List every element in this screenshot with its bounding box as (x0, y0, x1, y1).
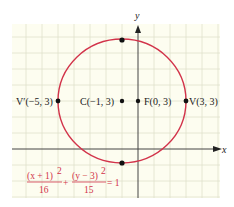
point-center (120, 99, 124, 103)
label-vprime: V′(−5, 3) (16, 96, 53, 108)
point-vprime (56, 99, 61, 104)
eq-exponent-2: 2 (101, 166, 106, 176)
eq-rhs: = 1 (107, 178, 120, 188)
x-axis-label: x (221, 144, 227, 155)
ellipse-diagram: x y V′(−5, 3) C(−1, 3) F(0, 3) V(3, 3) (… (0, 0, 234, 207)
eq-denominator-1: 16 (39, 185, 49, 195)
eq-plus: + (63, 178, 68, 188)
eq-denominator-2: 15 (84, 185, 94, 195)
eq-numerator-1: (x + 1) (27, 171, 53, 182)
eq-numerator-2: (y − 3) (72, 171, 98, 182)
label-vertex: V(3, 3) (189, 96, 218, 108)
point-focus (136, 99, 140, 103)
point-bottom (119, 160, 124, 165)
y-axis-label: y (134, 10, 140, 21)
eq-exponent-1: 2 (57, 166, 62, 176)
point-vertex (184, 99, 189, 104)
label-focus: F(0, 3) (144, 96, 171, 108)
point-top (119, 37, 124, 42)
label-center: C(−1, 3) (80, 96, 114, 108)
